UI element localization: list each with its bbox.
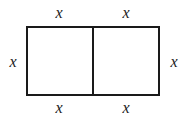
geometry-figure: x x x x x x [0,0,187,122]
label-right-side: x [163,54,185,70]
label-left-side: x [2,54,24,70]
label-bottom-right-segment: x [115,100,137,116]
label-top-right-segment: x [115,5,137,21]
vertical-divider-line [92,26,94,96]
label-top-left-segment: x [48,5,70,21]
label-bottom-left-segment: x [48,100,70,116]
